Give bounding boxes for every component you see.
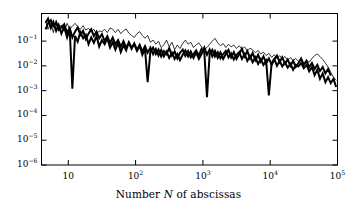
y-tick-exponent: −4 (28, 107, 37, 114)
x-tick-label: 105 (318, 172, 357, 181)
x-tick-label: 10 (48, 172, 88, 181)
x-tick-exponent: 4 (274, 169, 278, 176)
y-tick-mantissa: 10 (17, 35, 28, 45)
x-axis-title: Number N of abscissas (0, 188, 357, 200)
x-axis-title-variable: N (164, 188, 173, 200)
figure-container: 10−110−210−310−410−510−6 10102103104105 … (0, 0, 357, 212)
y-tick-mantissa: 10 (17, 60, 28, 70)
x-tick-exponent: 3 (207, 169, 211, 176)
y-tick-mantissa: 10 (17, 85, 28, 95)
y-tick-label: 10−1 (17, 36, 38, 45)
y-tick-exponent: −2 (28, 58, 37, 65)
y-tick-label: 10−2 (17, 61, 38, 70)
x-axis-title-prefix: Number (116, 188, 160, 200)
x-tick-label: 103 (183, 172, 223, 181)
y-tick-label: 10−3 (17, 86, 38, 95)
y-tick-exponent: −5 (28, 132, 37, 139)
y-tick-mantissa: 10 (17, 134, 28, 144)
y-tick-label: 10−6 (17, 160, 38, 169)
y-tick-label: 10−5 (17, 135, 38, 144)
y-tick-exponent: −1 (28, 33, 37, 40)
y-tick-label: 10−4 (17, 110, 38, 119)
x-tick-label: 104 (250, 172, 290, 181)
x-tick-mantissa: 10 (63, 171, 74, 181)
x-tick-mantissa: 10 (195, 171, 206, 181)
x-tick-exponent: 2 (139, 169, 143, 176)
y-tick-mantissa: 10 (17, 109, 28, 119)
x-axis-title-suffix: of abscissas (176, 188, 241, 200)
x-tick-mantissa: 10 (330, 171, 341, 181)
x-tick-mantissa: 10 (128, 171, 139, 181)
y-tick-exponent: −3 (28, 83, 37, 90)
y-tick-mantissa: 10 (17, 159, 28, 169)
x-tick-exponent: 5 (341, 169, 345, 176)
x-tick-label: 102 (116, 172, 156, 181)
y-tick-exponent: −6 (28, 157, 37, 164)
x-tick-mantissa: 10 (262, 171, 273, 181)
